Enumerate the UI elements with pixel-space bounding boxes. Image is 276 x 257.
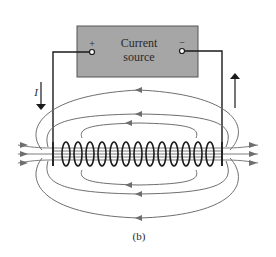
- minus-terminal: [180, 49, 185, 54]
- arrow-down-icon: [36, 104, 46, 110]
- source-label-line1: Current: [121, 36, 158, 50]
- plus-terminal: [90, 50, 95, 55]
- plus-symbol: +: [89, 38, 95, 49]
- current-label: I: [33, 86, 39, 98]
- arrow-up-icon: [230, 73, 240, 79]
- figure-caption: (b): [133, 230, 146, 243]
- solenoid-diagram: Current source + −: [0, 0, 276, 257]
- current-source: Current source + −: [77, 26, 198, 77]
- current-arrow-right: [230, 73, 240, 108]
- minus-symbol: −: [179, 37, 185, 48]
- current-arrow-left: I: [33, 82, 46, 110]
- source-label-line2: source: [123, 50, 154, 64]
